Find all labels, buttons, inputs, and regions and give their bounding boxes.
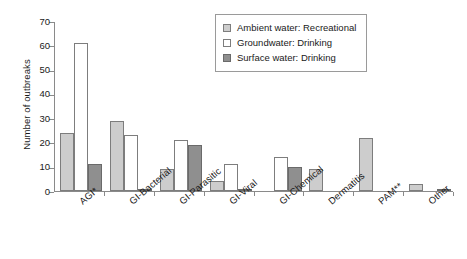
y-axis-line — [54, 22, 55, 192]
x-tick-mark — [453, 192, 454, 196]
y-tick-label: 0 — [16, 186, 50, 197]
bar-chart: Number of outbreaks 010203040506070 AGI*… — [0, 0, 467, 259]
x-tick-mark — [204, 192, 205, 196]
y-tick-label: 40 — [16, 88, 50, 99]
bar — [359, 138, 373, 191]
legend-label: Surface water: Drinking — [237, 52, 336, 63]
legend-label: Ambient water: Recreational — [237, 22, 356, 33]
bar — [274, 157, 288, 191]
chart-legend: Ambient water: RecreationalGroundwater: … — [215, 14, 367, 72]
x-tick-mark — [254, 192, 255, 196]
legend-item: Ambient water: Recreational — [223, 20, 356, 35]
y-axis-title: Number of outbreaks — [21, 30, 32, 180]
legend-swatch-icon — [223, 39, 231, 47]
bar — [124, 135, 138, 191]
x-tick-mark — [353, 192, 354, 196]
y-tick-label: 60 — [16, 40, 50, 51]
y-tick-label: 20 — [16, 137, 50, 148]
legend-swatch-icon — [223, 54, 231, 62]
y-tick-label: 70 — [16, 16, 50, 27]
x-tick-mark — [403, 192, 404, 196]
x-tick-mark — [104, 192, 105, 196]
bar — [224, 164, 238, 191]
legend-swatch-icon — [223, 24, 231, 32]
x-tick-mark — [303, 192, 304, 196]
legend-item: Surface water: Drinking — [223, 50, 356, 65]
y-tick-label: 50 — [16, 64, 50, 75]
legend-item: Groundwater: Drinking — [223, 35, 356, 50]
bar — [409, 184, 423, 191]
bar — [174, 140, 188, 191]
x-tick-mark — [154, 192, 155, 196]
y-tick-label: 10 — [16, 161, 50, 172]
y-tick-label: 30 — [16, 113, 50, 124]
bar — [74, 43, 88, 191]
bar — [60, 133, 74, 191]
bar — [110, 121, 124, 191]
legend-label: Groundwater: Drinking — [237, 37, 332, 48]
